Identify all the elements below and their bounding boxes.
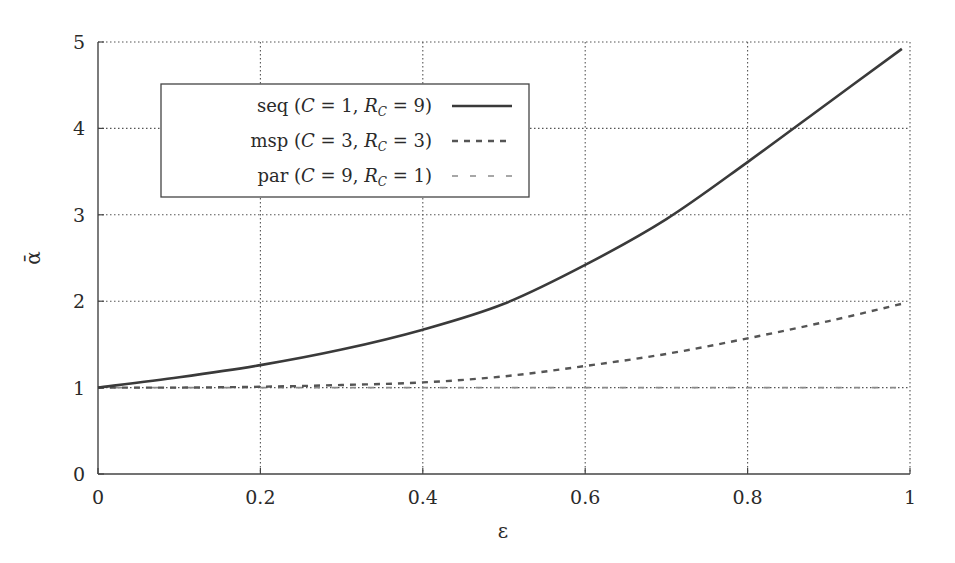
y-tick-label: 3 [73, 204, 85, 226]
legend-label: par (C = 9, RC = 1) [257, 165, 432, 189]
series-line-msp [98, 304, 902, 388]
y-tick-label: 4 [73, 117, 85, 139]
x-tick-label: 0.2 [245, 486, 275, 508]
legend-label: seq (C = 1, RC = 9) [257, 95, 432, 119]
legend: seq (C = 1, RC = 9)msp (C = 3, RC = 3)pa… [161, 84, 529, 197]
x-tick-label: 0.4 [408, 486, 438, 508]
y-tick-label: 2 [73, 290, 85, 312]
y-axis-ticks: 012345 [73, 31, 104, 485]
x-tick-label: 0.6 [570, 486, 600, 508]
line-chart: 00.20.40.60.81 012345 seq (C = 1, RC = 9… [0, 0, 955, 563]
y-tick-label: 0 [73, 463, 85, 485]
x-axis-label: ε [498, 519, 508, 543]
y-tick-label: 5 [73, 31, 85, 53]
x-tick-label: 0.8 [732, 486, 762, 508]
x-tick-label: 0 [92, 486, 104, 508]
legend-label: msp (C = 3, RC = 3) [250, 130, 432, 154]
y-axis-label: ᾱ [21, 251, 45, 265]
x-tick-label: 1 [904, 486, 916, 508]
y-tick-label: 1 [73, 377, 85, 399]
